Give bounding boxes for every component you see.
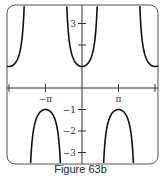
sec-branch bbox=[31, 110, 61, 164]
x-tick-label: −π bbox=[39, 94, 53, 104]
axes bbox=[7, 5, 158, 164]
y-tick-label: −2 bbox=[63, 126, 76, 136]
sec-branch bbox=[104, 110, 134, 164]
y-tick-label: 3 bbox=[70, 19, 76, 29]
sec-branch bbox=[140, 6, 158, 67]
y-tick-label: −1 bbox=[63, 105, 76, 115]
sec-branch bbox=[7, 6, 24, 66]
figure-caption: Figure 63b bbox=[0, 163, 161, 176]
x-tick-label: π bbox=[116, 94, 122, 104]
secant-graph: −ππ3−1−2−3 bbox=[0, 0, 161, 176]
y-tick-label: −3 bbox=[63, 148, 77, 158]
